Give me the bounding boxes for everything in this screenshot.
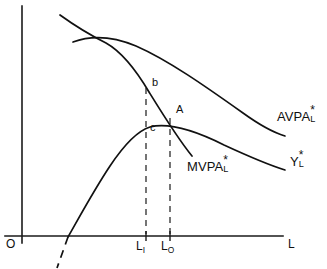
y-curve-label-scripts: LL* — [299, 155, 304, 168]
point-b-label: b — [152, 77, 158, 88]
avpa-curve-label-scripts: LL* — [310, 110, 315, 123]
economics-diagram: O L LI LO b A c AVPALL* YLL* MVPALL* — [0, 0, 327, 269]
origin-label: O — [6, 238, 15, 250]
mvpa-curve — [60, 15, 192, 156]
x-axis-label: L — [288, 238, 295, 250]
mvpa-curve-label-scripts: LL* — [223, 160, 228, 173]
mvpa-curve-label-base: MVPA — [187, 159, 223, 174]
x-tick-label-L-one-base: L — [136, 239, 143, 253]
y-curve-dashed-extension — [57, 237, 68, 268]
point-A-label: A — [176, 104, 183, 115]
y-curve — [68, 126, 285, 237]
avpa-curve — [73, 37, 285, 136]
x-tick-label-L-one: LI — [136, 240, 145, 254]
avpa-curve-label-base: AVPA — [277, 109, 310, 124]
avpa-curve-label-sup: * — [310, 105, 315, 117]
x-tick-label-L-zero-sub: O — [168, 245, 175, 255]
x-tick-label-L-zero-base: L — [161, 239, 168, 253]
y-curve-label-base: Y — [290, 154, 299, 169]
diagram-canvas — [0, 0, 327, 269]
y-curve-label: YLL* — [290, 155, 304, 168]
y-curve-label-sup: * — [299, 150, 304, 162]
mvpa-curve-label-sup: * — [223, 155, 228, 167]
mvpa-curve-label: MVPALL* — [187, 160, 228, 173]
x-tick-label-L-zero: LO — [161, 240, 174, 254]
x-tick-label-L-one-sub: I — [143, 245, 145, 255]
point-c-label: c — [150, 122, 156, 133]
avpa-curve-label: AVPALL* — [277, 110, 315, 123]
